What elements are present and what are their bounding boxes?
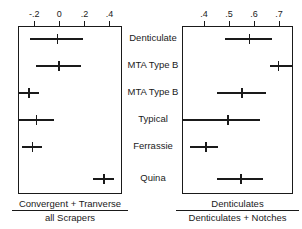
confidence-interval-bar [190, 146, 218, 148]
axis-tick-label: .7 [265, 10, 293, 19]
axis-tick [109, 21, 110, 26]
confidence-interval-bar [182, 119, 260, 121]
point-estimate-tick [240, 174, 242, 185]
axis-tick [84, 21, 85, 26]
axis-tick-label: .4 [95, 10, 123, 19]
axis-tick-label: .2 [70, 10, 98, 19]
point-estimate-tick [32, 142, 34, 153]
category-label: MTA Type B [124, 60, 182, 70]
axis-tick [34, 21, 35, 26]
point-estimate-tick [57, 34, 59, 45]
confidence-interval-bar [270, 65, 294, 67]
left-caption-numerator: Convergent + Tranverse [12, 198, 128, 211]
category-label: Ferrassie [124, 141, 182, 151]
axis-tick [279, 21, 280, 26]
axis-tick-label: .4 [190, 10, 218, 19]
point-estimate-tick [227, 115, 229, 126]
category-label: Typical [124, 114, 182, 124]
axis-tick-label: 0 [45, 10, 73, 19]
left-caption-denominator: all Scrapers [12, 211, 128, 223]
axis-tick [204, 21, 205, 26]
axis-tick [59, 21, 60, 26]
right-plot-frame [182, 26, 293, 194]
right-caption-numerator: Denticulates [176, 198, 299, 211]
point-estimate-tick [36, 115, 38, 126]
axis-tick [254, 21, 255, 26]
point-estimate-tick [58, 61, 60, 72]
point-estimate-tick [249, 34, 251, 45]
left-plot-frame [18, 26, 122, 194]
figure-canvas: -.20.2.4 Convergent + Tranverse all Scra… [0, 0, 302, 229]
axis-tick [229, 21, 230, 26]
right-caption-denominator: Denticulates + Notches [176, 211, 299, 223]
category-label: Quina [124, 173, 182, 183]
point-estimate-tick [103, 174, 105, 185]
category-label: MTA Type B [124, 87, 182, 97]
axis-tick-label: -.2 [20, 10, 48, 19]
right-axis-caption: Denticulates Denticulates + Notches [176, 198, 299, 223]
axis-tick-label: .6 [240, 10, 268, 19]
axis-tick-label: .5 [215, 10, 243, 19]
left-axis-caption: Convergent + Tranverse all Scrapers [12, 198, 128, 223]
point-estimate-tick [241, 88, 243, 99]
point-estimate-tick [278, 61, 280, 72]
category-label: Denticulate [124, 33, 182, 43]
point-estimate-tick [205, 142, 207, 153]
point-estimate-tick [28, 88, 30, 99]
